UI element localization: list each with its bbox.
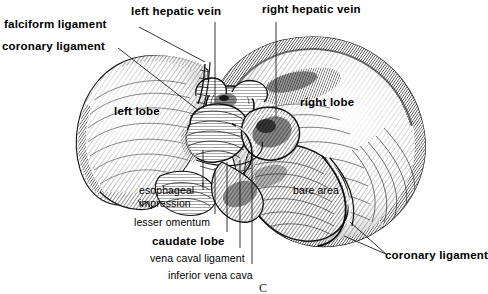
- label-left-hepatic-vein: left hepatic vein: [131, 5, 221, 17]
- label-right-lobe: right lobe: [300, 96, 354, 108]
- label-vena-caval-ligament: vena caval ligament: [150, 253, 245, 264]
- label-esophageal-impression-line2: impression: [139, 198, 191, 209]
- caudate-process-shape: [241, 107, 299, 160]
- figure-caption-mark: C: [259, 281, 267, 294]
- label-coronary-ligament-right: coronary ligament: [385, 249, 488, 261]
- label-caudate-lobe: caudate lobe: [152, 235, 225, 247]
- label-bare-area: bare area: [293, 185, 339, 196]
- label-inferior-vena-cava: inferior vena cava: [168, 270, 253, 281]
- label-esophageal-impression-line1: esophageal: [139, 185, 194, 196]
- label-falciform-ligament: falciform ligament: [4, 18, 107, 30]
- label-right-hepatic-vein: right hepatic vein: [262, 3, 361, 15]
- label-coronary-ligament-left: coronary ligament: [2, 40, 105, 52]
- label-left-lobe: left lobe: [114, 105, 160, 117]
- figure-canvas: falciform ligament coronary ligament lef…: [0, 0, 488, 294]
- label-lesser-omentum: lesser omentum: [134, 217, 210, 228]
